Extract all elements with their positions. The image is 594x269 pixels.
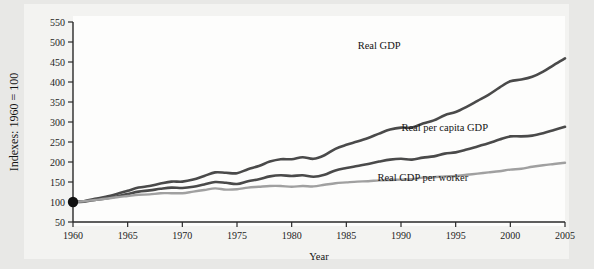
series-label: Real per capita GDP bbox=[401, 122, 488, 133]
line-chart: 5010015020025030035040045050055019601965… bbox=[0, 0, 594, 269]
x-tick-label: 2005 bbox=[555, 230, 575, 241]
x-tick-label: 1985 bbox=[336, 230, 356, 241]
x-tick-label: 1980 bbox=[282, 230, 302, 241]
y-axis-title: Indexes: 1960 = 100 bbox=[7, 73, 21, 171]
y-tick-label: 100 bbox=[50, 197, 65, 208]
y-tick-label: 250 bbox=[50, 137, 65, 148]
origin-marker-dot bbox=[68, 197, 78, 207]
x-axis-title: Year bbox=[309, 251, 329, 262]
y-tick-label: 400 bbox=[50, 77, 65, 88]
y-tick-label: 50 bbox=[55, 217, 65, 228]
x-tick-label: 1990 bbox=[391, 230, 411, 241]
x-tick-label: 2000 bbox=[500, 230, 520, 241]
axis-ticks: 5010015020025030035040045050055019601965… bbox=[50, 17, 575, 241]
x-tick-label: 1965 bbox=[118, 230, 138, 241]
y-tick-label: 550 bbox=[50, 17, 65, 28]
chart-figure: 5010015020025030035040045050055019601965… bbox=[0, 0, 594, 269]
y-tick-label: 300 bbox=[50, 117, 65, 128]
x-tick-label: 1970 bbox=[172, 230, 192, 241]
y-tick-label: 350 bbox=[50, 97, 65, 108]
x-tick-label: 1975 bbox=[227, 230, 247, 241]
series-line bbox=[73, 163, 565, 202]
y-tick-label: 450 bbox=[50, 57, 65, 68]
series-label: Real GDP per worker bbox=[377, 172, 468, 183]
series-label: Real GDP bbox=[358, 40, 401, 51]
x-tick-label: 1960 bbox=[63, 230, 83, 241]
y-tick-label: 150 bbox=[50, 177, 65, 188]
series-lines bbox=[73, 58, 565, 202]
series-line bbox=[73, 127, 565, 202]
series-line bbox=[73, 58, 565, 202]
x-tick-label: 1995 bbox=[446, 230, 466, 241]
y-tick-label: 500 bbox=[50, 37, 65, 48]
y-tick-label: 200 bbox=[50, 157, 65, 168]
